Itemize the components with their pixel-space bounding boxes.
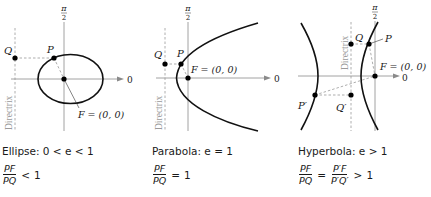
hyperbola-panel: π 2 0 Directrix Q P F = (0, 0) P′ Q′ bbox=[297, 3, 426, 131]
hyperbola-left-branch bbox=[301, 23, 318, 130]
ellipse-ratio-relation: < bbox=[21, 169, 30, 181]
parabola-ratio-denominator: PQ bbox=[152, 175, 167, 186]
ellipse-zero-label: 0 bbox=[127, 75, 133, 85]
hyperbola-point-q bbox=[348, 41, 353, 46]
ellipse-panel: π 2 0 Directrix Q P F = (0, 0) bbox=[4, 4, 133, 131]
ellipse-polar-axis-arrow-icon bbox=[117, 77, 124, 82]
hyperbola-ratio-numerator-2: P′F bbox=[332, 163, 347, 175]
ellipse-ratio: PF PQ < 1 bbox=[2, 163, 41, 186]
ellipse-point-q bbox=[12, 55, 17, 60]
hyperbola-ratio-fraction-1: PF PQ bbox=[298, 163, 313, 186]
hyperbola-directrix-label: Directrix bbox=[340, 35, 350, 70]
hyperbola-polar-axis-arrow-icon bbox=[393, 74, 400, 79]
parabola-focus-label: F = (0, 0) bbox=[190, 64, 237, 75]
ellipse-pi-over-2-denominator: 2 bbox=[62, 14, 66, 22]
hyperbola-zero-label: 0 bbox=[402, 73, 408, 83]
ellipse-ratio-fraction: PF PQ bbox=[2, 163, 17, 186]
hyperbola-point-p bbox=[366, 41, 371, 46]
hyperbola-ratio-relation-1: = bbox=[317, 169, 326, 181]
hyperbola-caption: Hyperbola: e > 1 bbox=[298, 145, 387, 157]
ellipse-caption: Ellipse: 0 < e < 1 bbox=[2, 145, 94, 157]
parabola-pi-over-2-numerator: π bbox=[184, 4, 191, 13]
ellipse-ratio-numerator: PF bbox=[3, 163, 16, 175]
hyperbola-ratio-denominator-1: PQ bbox=[298, 175, 313, 186]
parabola-ratio-rhs: 1 bbox=[184, 169, 191, 181]
hyperbola-label-q-prime: Q′ bbox=[336, 102, 347, 113]
parabola-point-p bbox=[178, 61, 183, 66]
hyperbola-ratio-rhs: 1 bbox=[366, 169, 373, 181]
ellipse-point-p bbox=[51, 55, 56, 60]
parabola-ratio-fraction: PF PQ bbox=[152, 163, 167, 186]
hyperbola-label-p: P bbox=[384, 33, 392, 44]
parabola-ratio-numerator: PF bbox=[153, 163, 166, 175]
hyperbola-focus-label: F = (0, 0) bbox=[379, 61, 426, 72]
ellipse-pi-over-2-numerator: π bbox=[60, 4, 67, 13]
hyperbola-pi-over-2-numerator: π bbox=[371, 3, 378, 12]
parabola-ratio: PF PQ = 1 bbox=[152, 163, 191, 186]
hyperbola-ratio-fraction-2: P′F P′Q′ bbox=[330, 163, 350, 186]
parabola-focus-point bbox=[185, 75, 190, 80]
hyperbola-segment-pf bbox=[369, 44, 375, 76]
hyperbola-point-p-prime bbox=[312, 92, 317, 97]
ellipse-focus-point bbox=[61, 76, 66, 81]
parabola-zero-label: 0 bbox=[274, 74, 280, 84]
hyperbola-ratio-denominator-2: P′Q′ bbox=[330, 175, 350, 186]
hyperbola-label-p-prime: P′ bbox=[297, 100, 308, 111]
ellipse-focus-label: F = (0, 0) bbox=[77, 109, 124, 120]
hyperbola-pi-over-2-denominator: 2 bbox=[373, 13, 377, 21]
parabola-label-p: P bbox=[176, 48, 184, 59]
hyperbola-ratio-numerator-1: PF bbox=[299, 163, 312, 175]
hyperbola-ratio: PF PQ = P′F P′Q′ > 1 bbox=[298, 163, 373, 186]
ellipse-ratio-denominator: PQ bbox=[2, 175, 17, 186]
parabola-caption: Parabola: e = 1 bbox=[152, 145, 233, 157]
ellipse-segment-pf bbox=[54, 58, 64, 79]
hyperbola-ratio-relation-2: > bbox=[354, 169, 363, 181]
ellipse-ratio-rhs: 1 bbox=[34, 169, 41, 181]
parabola-point-q bbox=[162, 61, 167, 66]
ellipse-label-p: P bbox=[46, 44, 54, 55]
parabola-ratio-relation: = bbox=[171, 169, 180, 181]
hyperbola-focus-point bbox=[372, 73, 377, 78]
hyperbola-point-q-prime bbox=[348, 92, 353, 97]
parabola-directrix-label: Directrix bbox=[154, 95, 164, 130]
hyperbola-segment-p-prime-f bbox=[315, 76, 375, 95]
parabola-polar-axis-arrow-icon bbox=[264, 76, 271, 81]
hyperbola-label-q: Q bbox=[355, 32, 363, 43]
parabola-pi-over-2-denominator: 2 bbox=[186, 14, 190, 22]
ellipse-directrix-label: Directrix bbox=[4, 95, 14, 130]
parabola-label-q: Q bbox=[154, 49, 162, 60]
parabola-panel: π 2 0 Directrix Q P F = (0, 0) bbox=[154, 4, 280, 131]
ellipse-label-q: Q bbox=[4, 45, 12, 56]
